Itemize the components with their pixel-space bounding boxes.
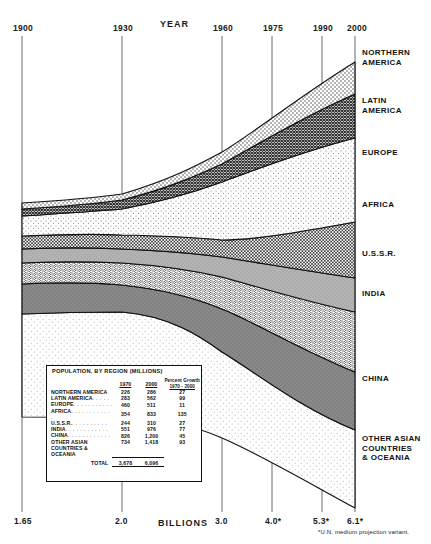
year-tick-1975: 1975: [263, 23, 283, 33]
row-dots: . . . . . . . . . . .: [74, 401, 113, 407]
row-region: EUROPE: [51, 401, 74, 407]
region-label-africa: AFRICA: [362, 200, 394, 210]
year-tick-2000: 2000: [347, 23, 367, 33]
table-row: AFRICA. . . . . . . . . . . . 354 833 13…: [48, 408, 200, 420]
year-tick-1930: 1930: [113, 23, 133, 33]
table-body: NORTHERN AMERICA 226 286 27 LATIN AMERIC…: [48, 389, 200, 466]
col-header-1970: 1970: [112, 378, 138, 389]
axis-title-billions: BILLIONS: [158, 518, 208, 528]
row-region: LATIN AMERICA: [51, 395, 93, 401]
row-region: OTHER ASIAN COUNTRIES & OCEANIA: [48, 439, 112, 458]
region-label-europe: EUROPE: [362, 148, 398, 158]
row-dots: . . . . . . . . . .: [72, 420, 107, 426]
row-1970: 734: [112, 439, 138, 458]
row-dots: . . . . . . . . . . . .: [68, 432, 110, 438]
region-label-ussr: U.S.S.R.: [362, 249, 396, 259]
growth-years: 1970 - 2000: [169, 384, 195, 389]
region-label-latin-america: LATIN AMERICA: [362, 96, 402, 115]
year-tick-1960: 1960: [213, 23, 233, 33]
col-header-growth: Percent Growth 1970 - 2000: [164, 378, 200, 389]
axis-title-year: YEAR: [160, 19, 189, 29]
region-label-india: INDIA: [362, 289, 386, 299]
total-label: TOTAL: [48, 457, 112, 466]
total-1970: 3,678: [112, 457, 138, 466]
row-growth: 135: [164, 408, 200, 420]
row-region: CHINA: [51, 432, 68, 438]
billions-tick-165: 1.65: [14, 516, 32, 526]
row-dots: . . . . .: [93, 395, 110, 401]
population-table: 1970 2000 Percent Growth 1970 - 2000 NOR…: [48, 378, 200, 467]
row-2000: 833: [138, 408, 164, 420]
growth-label: Percent Growth: [164, 378, 200, 383]
table-total-row: TOTAL 3,678 6,096: [48, 457, 200, 466]
total-2000: 6,096: [138, 457, 164, 466]
billions-tick-40: 4.0*: [265, 516, 281, 526]
chart-footnote: *U.N. medium projection variant.: [318, 529, 409, 535]
row-1970: 354: [112, 408, 138, 420]
year-tick-1900: 1900: [13, 23, 33, 33]
row-region: U.S.S.R.: [51, 420, 72, 426]
billions-tick-61: 6.1*: [347, 516, 363, 526]
region-label-china: CHINA: [362, 374, 389, 384]
table-row: OTHER ASIAN COUNTRIES & OCEANIA 734 1,41…: [48, 439, 200, 458]
region-label-other-asian: OTHER ASIAN COUNTRIES & OCEANIA: [362, 434, 421, 463]
row-region: AFRICA: [51, 408, 71, 414]
year-tick-1990: 1990: [313, 23, 333, 33]
col-header-2000: 2000: [138, 378, 164, 389]
row-growth: 93: [164, 439, 200, 458]
table-header-row: 1970 2000 Percent Growth 1970 - 2000: [48, 378, 200, 389]
population-table-title: POPULATION, BY REGION (MILLIONS): [52, 368, 163, 374]
row-region: INDIA: [51, 426, 66, 432]
billions-tick-30: 3.0: [215, 516, 228, 526]
chart-canvas: 1900 1930 1960 1975 1990 2000 YEAR 1.65 …: [0, 0, 431, 544]
row-2000: 1,418: [138, 439, 164, 458]
row-dots: . . . . . . . . . . . .: [66, 426, 108, 432]
billions-tick-53: 5.3*: [313, 516, 329, 526]
billions-tick-20: 2.0: [115, 516, 128, 526]
region-label-northern-america: NORTHERN AMERICA: [362, 48, 410, 67]
row-region: NORTHERN AMERICA: [51, 389, 107, 395]
